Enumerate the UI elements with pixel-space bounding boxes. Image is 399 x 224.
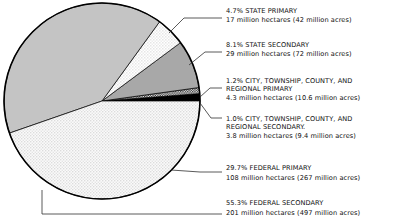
label-state-secondary-line1: 8.1% STATE SECONDARY (226, 41, 310, 49)
label-federal-primary-line1: 29.7% FEDERAL PRIMARY (226, 164, 312, 172)
label-state-secondary-line2: 29 million hectares (72 million acres) (226, 50, 352, 58)
callout-city-primary: 1.2% CITY, TOWNSHIP, COUNTY, AND REGIONA… (226, 77, 360, 102)
leader-city-secondary (200, 103, 222, 118)
callout-federal-secondary: 55.3% FEDERAL SECONDARY 201 million hect… (226, 199, 360, 217)
label-city-primary-line3: 4.3 million hectares (10.6 million acres… (226, 94, 360, 102)
label-federal-secondary-line2: 201 million hectares (497 million acres) (226, 209, 360, 217)
callout-labels: 4.7% STATE PRIMARY 17 million hectares (… (226, 7, 360, 217)
label-state-primary-line1: 4.7% STATE PRIMARY (226, 7, 298, 15)
leader-federal-primary (171, 170, 222, 172)
label-city-secondary-line3: 3.8 million hectares (9.4 million acres) (226, 132, 356, 140)
label-city-primary-line1: 1.2% CITY, TOWNSHIP, COUNTY, AND (226, 77, 352, 85)
pie-chart-svg: 4.7% STATE PRIMARY 17 million hectares (… (0, 0, 399, 224)
leader-city-primary (200, 88, 222, 97)
label-city-primary-line2: REGIONAL PRIMARY (226, 85, 293, 93)
pie-chart-figure: 4.7% STATE PRIMARY 17 million hectares (… (0, 0, 399, 224)
callout-state-secondary: 8.1% STATE SECONDARY 29 million hectares… (226, 41, 352, 58)
leader-state-secondary (189, 52, 222, 65)
label-federal-secondary-line1: 55.3% FEDERAL SECONDARY (226, 199, 324, 207)
callout-federal-primary: 29.7% FEDERAL PRIMARY 108 million hectar… (226, 164, 360, 182)
label-city-secondary-line1: 1.0% CITY, TOWNSHIP, COUNTY, AND (226, 115, 352, 123)
pie-slices (4, 3, 200, 199)
leader-state-primary (169, 18, 222, 33)
callout-state-primary: 4.7% STATE PRIMARY 17 million hectares (… (226, 7, 352, 24)
label-state-primary-line2: 17 million hectares (42 million acres) (226, 16, 352, 24)
label-city-secondary-line2: REGIONAL SECONDARY. (226, 123, 305, 131)
label-federal-primary-line2: 108 million hectares (267 million acres) (226, 174, 360, 182)
callout-city-secondary: 1.0% CITY, TOWNSHIP, COUNTY, AND REGIONA… (226, 115, 356, 140)
